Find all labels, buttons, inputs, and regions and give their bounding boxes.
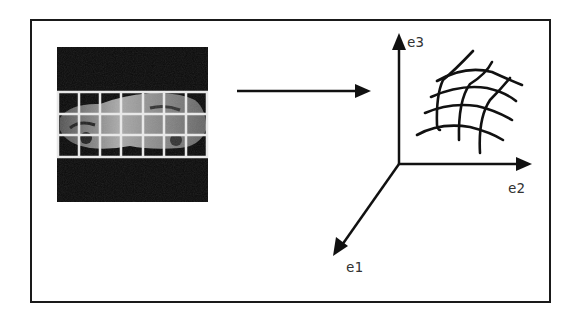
input-image (57, 47, 208, 202)
axis-label-e2: e2 (508, 180, 525, 196)
axes (333, 33, 532, 256)
axis-label-e1: e1 (346, 259, 363, 275)
axis-label-e3: e3 (407, 34, 424, 50)
diagram-canvas (0, 0, 574, 318)
mapping-arrow (237, 84, 371, 98)
surface-mesh (417, 51, 522, 153)
